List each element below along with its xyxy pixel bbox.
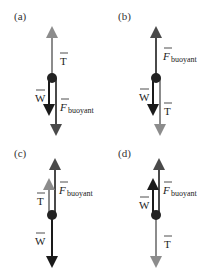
label-F-buoyant: Fbuoyant <box>162 182 198 198</box>
label-W: W <box>35 233 46 247</box>
label-F-buoyant: Fbuoyant <box>58 182 94 198</box>
label-T: T <box>60 53 68 67</box>
svg-text:buoyant: buoyant <box>68 106 95 115</box>
panel-label-d: (d) <box>118 147 131 160</box>
svg-text:buoyant: buoyant <box>171 55 198 64</box>
label-W: W <box>139 197 150 211</box>
svg-text:T: T <box>37 195 44 207</box>
object-dot <box>151 210 161 220</box>
svg-text:W: W <box>139 199 150 211</box>
label-W: W <box>139 89 150 103</box>
svg-text:buoyant: buoyant <box>171 189 198 198</box>
svg-text:F: F <box>162 50 170 62</box>
object-dot <box>47 73 57 83</box>
panel-label-c: (c) <box>14 147 27 160</box>
panel-a: (a) T W Fbuoyant <box>14 10 95 130</box>
svg-text:F: F <box>162 184 170 196</box>
svg-text:F: F <box>59 101 67 113</box>
svg-text:T: T <box>164 105 171 117</box>
svg-text:W: W <box>35 92 46 104</box>
panel-c: (c) Fbuoyant T W <box>14 147 94 262</box>
label-W: W <box>35 90 46 104</box>
label-F-buoyant: Fbuoyant <box>59 99 95 115</box>
svg-text:T: T <box>164 238 171 250</box>
label-T: T <box>164 103 172 117</box>
svg-text:W: W <box>35 235 46 247</box>
object-dot <box>151 73 161 83</box>
panel-label-b: (b) <box>118 10 131 23</box>
panel-label-a: (a) <box>14 10 27 23</box>
svg-text:W: W <box>139 91 150 103</box>
label-F-buoyant: Fbuoyant <box>162 48 198 64</box>
svg-text:buoyant: buoyant <box>67 189 94 198</box>
label-T: T <box>37 193 45 207</box>
panel-d: (d) Fbuoyant W T <box>118 147 198 262</box>
panel-b: (b) Fbuoyant W T <box>118 10 198 130</box>
object-dot <box>47 210 57 220</box>
free-body-diagrams: (a) T W Fbuoyant (b) Fbuoyant W T (c) Fb… <box>0 0 218 275</box>
svg-text:F: F <box>58 184 66 196</box>
svg-text:T: T <box>60 55 67 67</box>
label-T: T <box>164 236 172 250</box>
